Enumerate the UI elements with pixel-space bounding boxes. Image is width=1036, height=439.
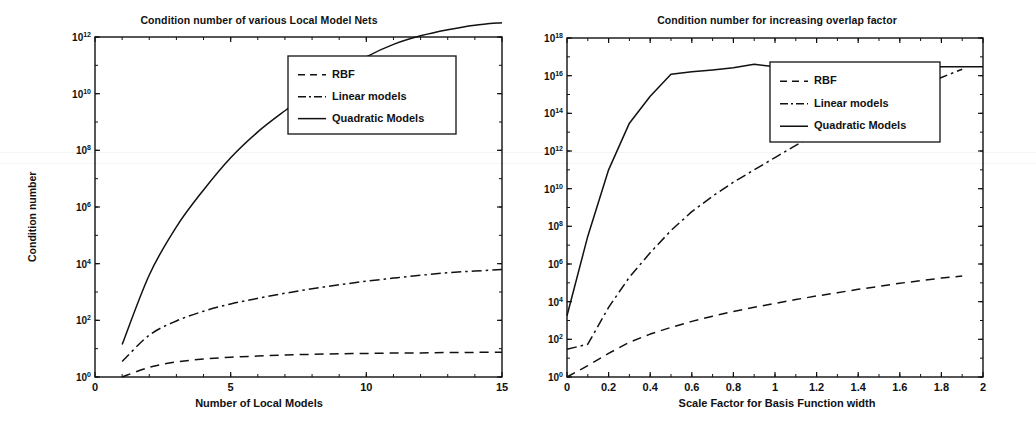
scan-artifact-line-2 xyxy=(0,163,1036,164)
y-tick-label: 108 xyxy=(76,144,91,156)
x-tick-label: 0.2 xyxy=(601,381,616,393)
x-tick-label: 5 xyxy=(228,381,234,393)
x-axis-label-right: Scale Factor for Basis Function width xyxy=(518,397,1036,409)
y-tick-label: 1010 xyxy=(72,87,91,99)
x-tick-label: 10 xyxy=(360,381,372,393)
y-tick-label: 100 xyxy=(548,371,563,383)
x-tick-label: 1.6 xyxy=(892,381,907,393)
x-tick-label: 1 xyxy=(772,381,778,393)
legend-label-rbf: RBF xyxy=(332,68,355,80)
x-tick-label: 0.6 xyxy=(684,381,699,393)
curve-linear-models xyxy=(122,270,502,362)
y-tick-label: 102 xyxy=(548,333,563,345)
x-axis-label-left: Number of Local Models xyxy=(0,397,518,409)
figure-two-panel-condition-number: Condition number of various Local Model … xyxy=(0,0,1036,439)
x-tick-label: 2 xyxy=(980,381,986,393)
curve-rbf xyxy=(567,276,962,377)
x-tick-label: 0 xyxy=(564,381,570,393)
y-tick-label: 106 xyxy=(548,258,563,270)
x-tick-label: 1.4 xyxy=(851,381,866,393)
y-tick-label: 108 xyxy=(548,220,563,232)
y-tick-label: 104 xyxy=(548,295,563,307)
y-tick-label: 1014 xyxy=(544,107,563,119)
legend-label-quadratic-models: Quadratic Models xyxy=(332,112,424,124)
y-tick-label: 102 xyxy=(76,314,91,326)
y-tick-label: 1018 xyxy=(544,32,563,44)
y-axis-label-left: Condition number xyxy=(26,172,38,262)
x-tick-label: 15 xyxy=(496,381,508,393)
y-tick-label: 1010 xyxy=(544,182,563,194)
plot-canvas-right xyxy=(518,0,1036,439)
x-tick-label: 0.4 xyxy=(643,381,658,393)
scan-artifact-line-1 xyxy=(0,152,1036,153)
y-tick-label: 100 xyxy=(76,371,91,383)
curve-rbf xyxy=(122,352,502,377)
y-tick-label: 104 xyxy=(76,257,91,269)
legend-label-linear-models: Linear models xyxy=(814,97,889,109)
x-tick-label: 1.8 xyxy=(934,381,949,393)
legend-label-linear-models: Linear models xyxy=(332,90,407,102)
y-tick-label: 106 xyxy=(76,201,91,213)
legend-label-rbf: RBF xyxy=(814,74,837,86)
chart-panel-left: Condition number of various Local Model … xyxy=(0,0,518,439)
x-tick-label: 0.8 xyxy=(726,381,741,393)
y-tick-label: 1012 xyxy=(544,145,563,157)
x-tick-label: 1.2 xyxy=(809,381,824,393)
y-tick-label: 1012 xyxy=(72,31,91,43)
legend-label-quadratic-models: Quadratic Models xyxy=(814,119,906,131)
y-tick-label: 1016 xyxy=(544,69,563,81)
chart-panel-right: Condition number for increasing overlap … xyxy=(518,0,1036,439)
x-tick-label: 0 xyxy=(92,381,98,393)
